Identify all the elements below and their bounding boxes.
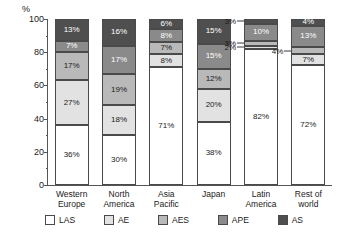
- segment-as[interactable]: 13%: [55, 19, 89, 41]
- segment-ape[interactable]: 10%: [244, 24, 278, 41]
- y-axis-tick-label: 20: [34, 147, 44, 157]
- segment-aes[interactable]: [244, 41, 278, 46]
- segment-ae[interactable]: 18%: [102, 105, 136, 135]
- segment-value-label: 27%: [64, 99, 80, 107]
- segment-las[interactable]: 71%: [149, 67, 183, 185]
- segment-value-label: 12%: [206, 75, 222, 83]
- y-axis-minor-tick: [46, 135, 49, 136]
- segment-value-label: 30%: [111, 156, 127, 164]
- chart-legend: LASAEAESAPEAS: [45, 211, 303, 229]
- x-axis-line: [47, 185, 332, 186]
- segment-value-label: 20%: [206, 101, 222, 109]
- segment-las[interactable]: 30%: [102, 135, 136, 185]
- segment-value-label: 4%: [303, 18, 315, 26]
- legend-item-las[interactable]: LAS: [45, 215, 75, 225]
- y-axis-minor-tick: [46, 102, 49, 103]
- y-axis-tick-mark: [44, 19, 48, 20]
- segment-value-label: 6%: [161, 20, 173, 28]
- segment-value-label: 17%: [64, 62, 80, 70]
- y-axis-tick-label: 80: [34, 47, 44, 57]
- segment-value-label: 19%: [111, 86, 127, 94]
- segment-value-label: 7%: [303, 56, 315, 64]
- segment-value-label: 36%: [64, 151, 80, 159]
- y-axis-tick-mark: [44, 52, 48, 53]
- category-label-rest-of-world: Rest ofworld: [277, 189, 339, 209]
- legend-item-aes[interactable]: AES: [158, 215, 189, 225]
- segment-value-label: 10%: [253, 28, 269, 36]
- segment-ape[interactable]: 13%: [291, 26, 325, 48]
- segment-aes[interactable]: 17%: [55, 52, 89, 80]
- callout-leader-line: [237, 47, 244, 48]
- callout-label: 3%: [222, 17, 236, 26]
- segment-value-label: 71%: [158, 122, 174, 130]
- segment-ae[interactable]: 8%: [149, 54, 183, 67]
- y-axis-minor-tick: [46, 69, 49, 70]
- segment-aes[interactable]: [291, 47, 325, 54]
- y-axis-tick-label: 40: [34, 114, 44, 124]
- bar-latin-america[interactable]: 82%10%: [244, 19, 278, 185]
- bar-north-america[interactable]: 30%18%19%17%16%: [102, 19, 136, 185]
- legend-label: AES: [172, 215, 189, 225]
- y-axis-tick-mark: [44, 152, 48, 153]
- segment-value-label: 38%: [206, 149, 222, 157]
- segment-value-label: 7%: [161, 44, 173, 52]
- legend-item-ape[interactable]: APE: [218, 215, 249, 225]
- segment-as[interactable]: 4%: [291, 19, 325, 26]
- y-axis-minor-tick: [46, 168, 49, 169]
- segment-ae[interactable]: 7%: [291, 54, 325, 66]
- legend-swatch-las: [45, 215, 55, 225]
- legend-label: LAS: [59, 215, 75, 225]
- legend-label: AE: [118, 215, 129, 225]
- segment-aes[interactable]: 12%: [197, 69, 231, 89]
- y-axis-unit-label: %: [22, 4, 30, 14]
- segment-value-label: 8%: [161, 32, 173, 40]
- segment-value-label: 7%: [66, 42, 78, 50]
- segment-ape[interactable]: 8%: [149, 29, 183, 42]
- segment-value-label: 17%: [111, 56, 127, 64]
- stacked-bar-chart: % 020406080100 36%27%17%7%13%30%18%19%17…: [0, 0, 340, 236]
- segment-value-label: 8%: [161, 57, 173, 65]
- segment-las[interactable]: 36%: [55, 125, 89, 185]
- segment-las[interactable]: 38%: [197, 122, 231, 185]
- segment-value-label: 15%: [206, 27, 222, 35]
- segment-ape[interactable]: 17%: [102, 46, 136, 74]
- segment-value-label: 13%: [300, 32, 316, 40]
- y-axis-tick-label: 100: [29, 14, 44, 24]
- legend-item-ae[interactable]: AE: [104, 215, 129, 225]
- bar-western-europe[interactable]: 36%27%17%7%13%: [55, 19, 89, 185]
- bar-rest-of-world[interactable]: 72%7%13%4%: [291, 19, 325, 185]
- segment-as[interactable]: 16%: [102, 19, 136, 46]
- callout-label: 4%: [269, 46, 283, 55]
- bar-asia-pacific[interactable]: 71%8%7%8%6%: [149, 19, 183, 185]
- legend-item-as[interactable]: AS: [278, 215, 303, 225]
- legend-swatch-as: [278, 215, 288, 225]
- segment-value-label: 15%: [206, 52, 222, 60]
- segment-aes[interactable]: 19%: [102, 74, 136, 106]
- segment-las[interactable]: 82%: [244, 49, 278, 185]
- category-label-line: Pacific: [135, 199, 197, 209]
- legend-swatch-ape: [218, 215, 228, 225]
- segment-value-label: 13%: [64, 26, 80, 34]
- legend-label: APE: [232, 215, 249, 225]
- legend-swatch-ae: [104, 215, 114, 225]
- y-axis-tick-mark: [44, 185, 48, 186]
- category-label-line: Rest of: [277, 189, 339, 199]
- segment-value-label: 16%: [111, 28, 127, 36]
- callout-label: 3%: [222, 39, 236, 48]
- segment-las[interactable]: 72%: [291, 65, 325, 185]
- segment-as[interactable]: 6%: [149, 19, 183, 29]
- segment-ae[interactable]: 20%: [197, 89, 231, 122]
- segment-aes[interactable]: 7%: [149, 42, 183, 54]
- segment-as[interactable]: [244, 19, 278, 24]
- legend-label: AS: [292, 215, 303, 225]
- legend-swatch-aes: [158, 215, 168, 225]
- plot-area: 020406080100 36%27%17%7%13%30%18%19%17%1…: [48, 19, 332, 185]
- segment-value-label: 18%: [111, 116, 127, 124]
- y-axis-tick-label: 60: [34, 80, 44, 90]
- segment-ae[interactable]: 27%: [55, 80, 89, 125]
- segment-ape[interactable]: 7%: [55, 41, 89, 53]
- y-axis-tick-mark: [44, 85, 48, 86]
- callout-leader-line: [237, 43, 244, 44]
- callout-leader-line: [237, 21, 244, 22]
- y-axis-tick-mark: [44, 119, 48, 120]
